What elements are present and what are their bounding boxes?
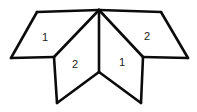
upper-left-panel-label: 1 xyxy=(42,31,48,43)
figure-container: 1 2 2 1 xyxy=(0,0,197,112)
lower-left-panel-label: 2 xyxy=(72,58,78,70)
upper-right-panel-label: 2 xyxy=(144,30,150,42)
folded-chevron-diagram: 1 2 2 1 xyxy=(0,0,197,112)
lower-right-panel-label: 1 xyxy=(119,56,125,68)
right-outer-lower-edge xyxy=(143,57,188,58)
left-outer-lower-edge xyxy=(11,57,54,58)
